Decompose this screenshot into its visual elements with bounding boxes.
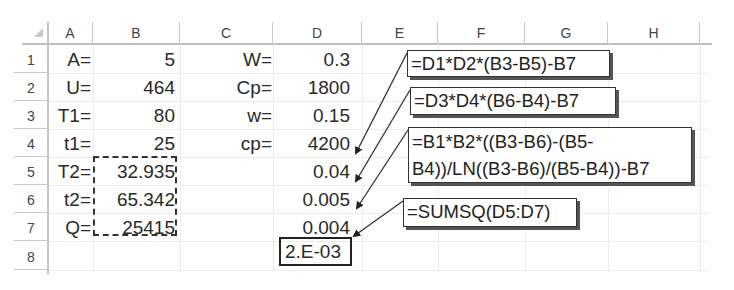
arrow-to-d7 <box>357 130 408 208</box>
arrow-to-d8 <box>354 201 403 236</box>
callout-text-line2: B4))/LN((B3-B6)/(B5-B4))-B7 <box>412 155 685 182</box>
callout-formula-d6: =D3*D4*(B6-B4)-B7 <box>410 87 616 115</box>
callout-formula-d7: =B1*B2*((B3-B6)-(B5- B4))/LN((B3-B6)/(B5… <box>408 127 692 183</box>
spreadsheet: A B C D E F G H 1 2 3 4 5 6 7 8 A= U= T1… <box>0 0 734 290</box>
callout-text: =SUMSQ(D5:D7) <box>407 201 550 222</box>
callout-formula-d5: =D1*D2*(B3-B5)-B7 <box>407 50 610 77</box>
callout-formula-d8: =SUMSQ(D5:D7) <box>403 198 577 227</box>
callout-text-line1: =B1*B2*((B3-B6)-(B5- <box>412 128 685 155</box>
callout-text: =D3*D4*(B6-B4)-B7 <box>414 90 579 111</box>
callout-text: =D1*D2*(B3-B5)-B7 <box>411 53 576 74</box>
